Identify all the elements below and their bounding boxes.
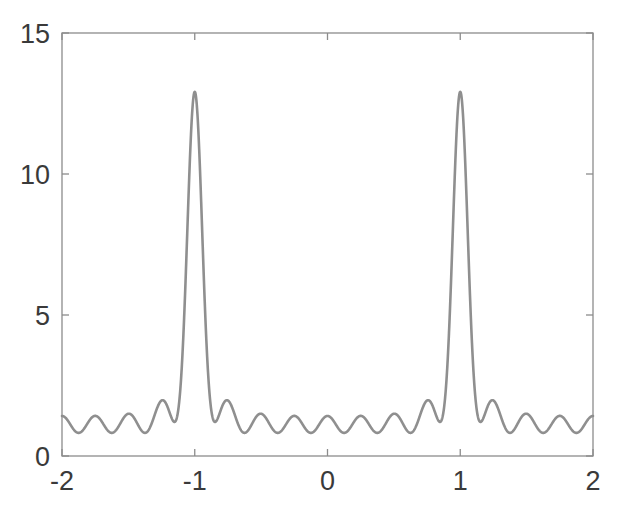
plot-canvas: -2-1012 051015 bbox=[0, 0, 623, 527]
y-tick-label: 15 bbox=[20, 19, 50, 49]
y-tick-label: 0 bbox=[35, 442, 50, 472]
x-tick-label: -1 bbox=[183, 466, 207, 496]
figure-background bbox=[0, 0, 623, 527]
figure-container: -2-1012 051015 bbox=[0, 0, 623, 527]
x-tick-label: 0 bbox=[320, 466, 335, 496]
x-tick-label: 1 bbox=[453, 466, 468, 496]
x-tick-label: -2 bbox=[50, 466, 74, 496]
x-tick-label: 2 bbox=[585, 466, 600, 496]
y-tick-label: 10 bbox=[20, 160, 50, 190]
y-tick-label: 5 bbox=[35, 301, 50, 331]
